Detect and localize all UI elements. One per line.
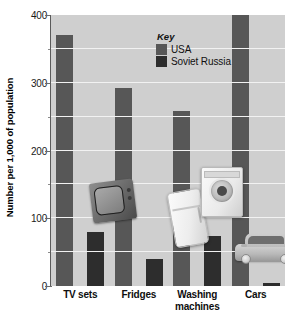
x-axis-tick-label-line: Washing <box>168 289 227 301</box>
car-illustration <box>235 230 285 266</box>
washing-machine-door <box>209 178 235 204</box>
y-axis-tick-label: 300 <box>19 77 47 88</box>
legend-swatch-soviet-russia <box>156 56 167 67</box>
y-axis-tick-label: 0 <box>19 281 47 292</box>
bar-chart-figure: Number per 1,000 of population 010020030… <box>0 0 295 319</box>
gridline <box>51 183 285 184</box>
gridline <box>51 116 285 117</box>
washing-machine-control-panel <box>204 171 240 178</box>
x-axis-tick-label-line: Cars <box>227 289 286 301</box>
car-window <box>248 236 284 244</box>
car-mirror <box>241 244 247 247</box>
x-axis-tick-label: Washingmachines <box>168 289 227 312</box>
bar-soviet-russia-tv-sets <box>87 232 104 286</box>
bar-soviet-russia-fridges <box>146 259 163 286</box>
y-axis-tick-label: 200 <box>19 145 47 156</box>
gridline <box>51 217 285 218</box>
y-axis-tick-label: 100 <box>19 213 47 224</box>
bar-soviet-russia-cars <box>263 283 280 286</box>
legend-label-soviet-russia: Soviet Russia <box>171 56 231 67</box>
gridline <box>51 150 285 151</box>
gridline <box>51 82 285 83</box>
x-axis-tick-label-line: Fridges <box>110 289 169 301</box>
y-axis-tick-label: 400 <box>19 10 47 21</box>
legend-swatch-usa <box>156 44 167 55</box>
x-axis-tick-label: Cars <box>227 289 286 301</box>
y-axis-tick-labels: 0100200300400 <box>16 0 47 319</box>
y-axis-title: Number per 1,000 of population <box>5 78 16 218</box>
x-axis-tick-label-line: machines <box>168 301 227 313</box>
car-rear-wheel <box>280 254 285 264</box>
legend-title: Key <box>157 31 231 42</box>
washing-machine-illustration <box>201 167 243 217</box>
x-axis-tick-label: Fridges <box>110 289 169 301</box>
legend-entry-usa: USA <box>156 44 231 55</box>
tv-illustration <box>89 178 138 223</box>
plot-area: Key USA Soviet Russia <box>51 15 285 286</box>
washing-machine-door-center <box>217 186 227 196</box>
chart-legend: Key USA Soviet Russia <box>156 31 231 68</box>
bar-soviet-russia-washing-machines <box>204 236 221 286</box>
x-axis-tick-label-line: TV sets <box>51 289 110 301</box>
x-axis-tick-label: TV sets <box>51 289 110 301</box>
car-front-wheel <box>241 254 251 264</box>
x-axis-tick-labels: TV setsFridgesWashingmachinesCars <box>51 289 285 319</box>
legend-label-usa: USA <box>171 44 191 55</box>
tv-screen <box>93 185 125 216</box>
legend-entry-soviet-russia: Soviet Russia <box>156 56 231 67</box>
bar-usa-tv-sets <box>56 35 73 286</box>
y-axis-major-tick <box>45 286 52 287</box>
